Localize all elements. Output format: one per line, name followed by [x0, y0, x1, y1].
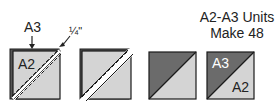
step2-cut-squares — [80, 49, 134, 102]
seam-allowance-label: ¼" — [69, 24, 82, 38]
diagram-title: A2-A3 Units Make 48 — [196, 9, 278, 41]
step1-top-label: A3 — [24, 20, 41, 34]
step4-lower-label: A2 — [232, 80, 249, 94]
step1-square-label: A2 — [18, 57, 35, 71]
title-line-2: Make 48 — [196, 25, 278, 41]
step3-hst-unit — [149, 52, 196, 99]
title-line-1: A2-A3 Units — [196, 9, 278, 25]
arrow-down-icon — [29, 36, 35, 49]
step4-upper-label: A3 — [212, 56, 229, 70]
